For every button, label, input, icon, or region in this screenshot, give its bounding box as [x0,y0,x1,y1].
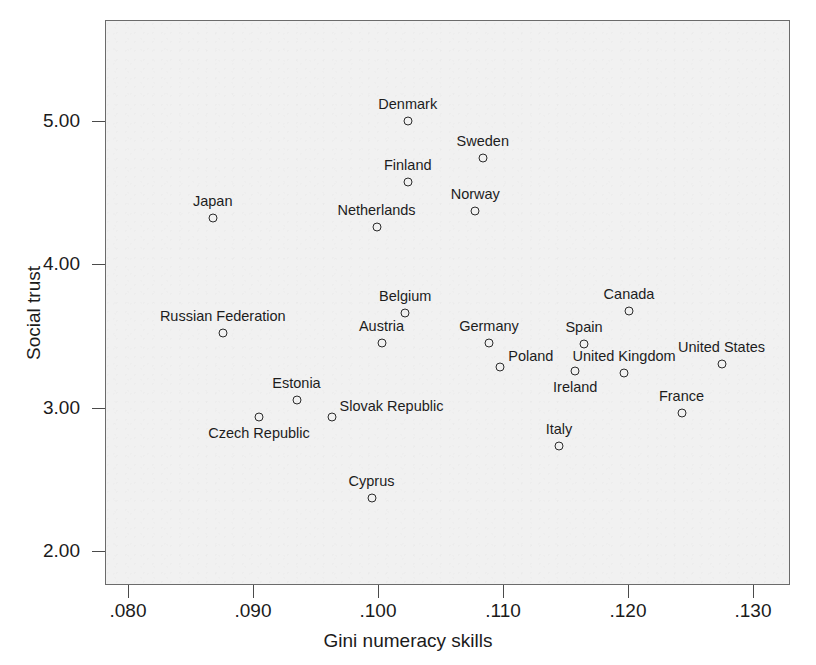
scatter-point[interactable] [620,368,629,377]
scatter-point[interactable] [401,308,410,317]
scatter-point[interactable] [367,493,376,502]
scatter-point-label: Japan [193,194,233,209]
x-tick-label: .080 [110,600,147,622]
scatter-point-label: Russian Federation [160,308,286,323]
scatter-point[interactable] [403,116,412,125]
scatter-point-label: Norway [451,186,500,201]
x-tick-mark [628,585,629,598]
scatter-point[interactable] [485,338,494,347]
x-tick-mark [128,585,129,598]
scatter-point-label: Belgium [379,288,431,303]
scatter-point-label: Spain [565,320,602,335]
y-tick-label: 3.00 [43,397,80,419]
scatter-point[interactable] [403,178,412,187]
scatter-point[interactable] [377,338,386,347]
x-tick-label: .090 [235,600,272,622]
scatter-point-label: Slovak Republic [340,399,444,414]
x-tick-label: .110 [485,600,521,622]
scatter-point-label: United Kingdom [572,348,675,363]
scatter-point-label: Czech Republic [208,426,310,441]
scatter-point[interactable] [218,328,227,337]
x-tick-mark [253,585,254,598]
x-tick-label: .130 [735,600,772,622]
scatter-point-label: Austria [359,318,404,333]
scatter-point-label: Italy [546,421,573,436]
scatter-point-label: Netherlands [337,202,415,217]
y-tick-mark [92,264,105,265]
x-tick-label: .120 [610,600,647,622]
scatter-point-label: Poland [508,349,553,364]
y-tick-label: 2.00 [43,540,80,562]
scatter-point-label: France [659,388,704,403]
scatter-point[interactable] [625,307,634,316]
scatter-point[interactable] [372,222,381,231]
scatter-point-label: Denmark [378,96,437,111]
scatter-point-label: Ireland [553,380,597,395]
scatter-point[interactable] [555,441,564,450]
scatter-point[interactable] [496,363,505,372]
scatter-point[interactable] [471,206,480,215]
scatter-point[interactable] [717,360,726,369]
scatter-point[interactable] [255,413,264,422]
plot-area: JapanDenmarkSwedenFinlandNorwayNetherlan… [105,20,790,585]
scatter-point[interactable] [677,408,686,417]
x-tick-label: .100 [360,600,397,622]
scatter-point-label: Sweden [457,133,509,148]
scatter-point[interactable] [292,396,301,405]
scatter-point-label: Cyprus [349,473,395,488]
y-tick-label: 4.00 [43,253,80,275]
y-tick-mark [92,408,105,409]
y-tick-mark [92,551,105,552]
chart-container: JapanDenmarkSwedenFinlandNorwayNetherlan… [0,0,816,665]
scatter-point-label: Canada [604,287,655,302]
scatter-point[interactable] [208,214,217,223]
scatter-point-label: Estonia [272,376,320,391]
scatter-point-label: Finland [384,158,432,173]
scatter-point-label: United States [678,340,765,355]
x-tick-mark [503,585,504,598]
scatter-point[interactable] [478,153,487,162]
y-tick-mark [92,121,105,122]
scatter-point[interactable] [571,367,580,376]
y-axis-title: Social trust [23,193,45,433]
scatter-point[interactable] [327,413,336,422]
x-axis-title: Gini numeracy skills [0,630,816,652]
x-tick-mark [378,585,379,598]
y-tick-label: 5.00 [43,110,80,132]
x-tick-mark [753,585,754,598]
scatter-point-label: Germany [459,318,519,333]
scatter-points-layer: JapanDenmarkSwedenFinlandNorwayNetherlan… [106,21,789,584]
